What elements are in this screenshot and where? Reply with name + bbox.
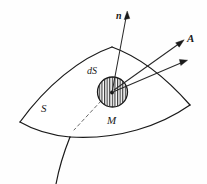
secondary-vector-head: [179, 59, 187, 65]
field-vector-head: [176, 40, 185, 47]
normal-vector-head: [124, 11, 130, 20]
normal-vector-label: n: [116, 11, 122, 21]
figure-container: n A dS S M: [0, 0, 207, 184]
field-vector-label: A: [187, 33, 194, 44]
area-element-label: dS: [87, 66, 97, 76]
point-label: M: [107, 115, 116, 126]
coordinate-curve: [56, 137, 70, 184]
surface-label: S: [41, 103, 47, 114]
surface-flux-diagram: [0, 0, 207, 184]
